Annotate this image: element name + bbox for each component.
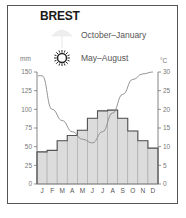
left-tick-label: 125 (21, 87, 32, 94)
left-tick-label: 0 (28, 180, 32, 187)
bar (37, 152, 47, 184)
month-label: A (70, 187, 75, 194)
left-tick-label: 75 (25, 124, 33, 131)
month-label: M (80, 187, 85, 194)
month-label: J (40, 187, 43, 194)
month-label: D (151, 187, 156, 194)
bar (108, 110, 118, 184)
month-label: A (110, 187, 115, 194)
bar (138, 141, 148, 184)
bar (47, 150, 57, 184)
month-label: O (130, 187, 135, 194)
right-tick-label: 20 (163, 106, 171, 113)
bar (67, 135, 77, 184)
month-label: F (50, 187, 54, 194)
right-tick-label: 10 (163, 143, 171, 150)
right-tick-label: 5 (163, 162, 167, 169)
month-label: J (101, 187, 104, 194)
left-tick-label: 100 (21, 106, 32, 113)
bar (118, 118, 128, 184)
right-tick-label: 30 (163, 68, 171, 75)
bar (128, 131, 138, 184)
right-tick-label: 0 (163, 180, 167, 187)
bar (148, 148, 158, 184)
left-tick-label: 150 (21, 68, 32, 75)
bar (98, 111, 108, 184)
month-label: N (141, 187, 146, 194)
left-tick-label: 25 (25, 162, 33, 169)
month-label: J (91, 187, 94, 194)
bar (77, 130, 87, 184)
left-tick-label: 50 (25, 143, 33, 150)
right-tick-label: 15 (163, 124, 171, 131)
right-tick-label: 25 (163, 87, 171, 94)
bar (87, 118, 97, 184)
month-label: S (121, 187, 126, 194)
month-label: M (59, 187, 64, 194)
bar (57, 141, 67, 184)
climate-chart: 0255075100125150051015202530JFMAMJJASOND (0, 0, 186, 218)
